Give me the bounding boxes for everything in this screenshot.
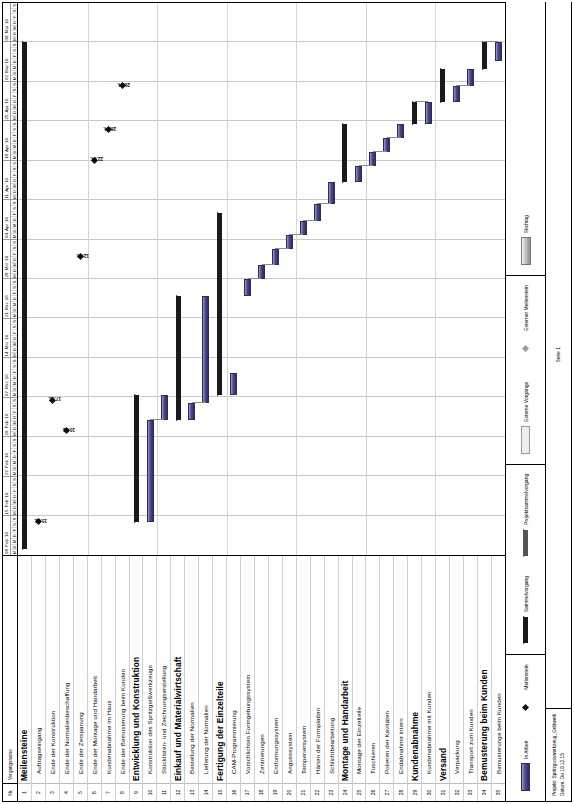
row-task-name: Schlichtbearbeitung <box>325 556 338 783</box>
table-row[interactable]: 1Meilensteine <box>18 556 32 801</box>
dependency-link <box>248 278 262 279</box>
table-row[interactable]: 33Transport zum Kunden <box>464 556 478 801</box>
table-row[interactable]: 11Stücklisten- und Zeichnungserstellung <box>157 556 171 801</box>
task-bar[interactable] <box>161 395 168 420</box>
table-row[interactable]: 6Ende der Montage und Handarbeit <box>88 556 102 801</box>
summary-bar[interactable] <box>217 213 222 395</box>
bar-icon <box>521 763 530 791</box>
week-label: 22. Feb '16 <box>3 438 11 477</box>
task-bar[interactable] <box>286 235 293 249</box>
table-row[interactable]: 16CAM-Programmierung <box>227 556 241 801</box>
task-bar[interactable] <box>272 249 279 266</box>
day-letter: M <box>11 341 17 347</box>
task-bar[interactable] <box>383 138 390 152</box>
table-row[interactable]: 8Ende der Bemusterung beim Kunden <box>116 556 130 801</box>
table-row[interactable]: 2Auftragseingang <box>32 556 46 801</box>
table-row[interactable]: 7Kundenabnahme im Haus <box>102 556 116 801</box>
table-row[interactable]: 32Verpackung <box>450 556 464 801</box>
external-milestone-icon <box>522 345 529 352</box>
table-row[interactable]: 19Entformungssystem <box>269 556 283 801</box>
day-letter: D <box>11 267 17 273</box>
table-row[interactable]: 12Einkauf und Materialwirtschaft <box>171 556 185 801</box>
table-row[interactable]: 29Kundenabnahme <box>408 556 422 801</box>
table-row[interactable]: 9Entwicklung und Konstruktion <box>130 556 144 801</box>
milestone-label: 17.03. <box>48 396 61 401</box>
table-row[interactable]: 21Temperiersystem <box>297 556 311 801</box>
week-days: MDMDFSS <box>11 477 17 516</box>
table-row[interactable]: 10Konstruktion des Spritzgießwerkzeugs <box>143 556 157 801</box>
day-letter: S <box>11 87 17 93</box>
table-row[interactable]: 13Bestellung der Normalien <box>185 556 199 801</box>
table-row[interactable]: 20Angusssystem <box>283 556 297 801</box>
deadline-icon <box>521 237 531 265</box>
task-bar[interactable] <box>425 102 432 124</box>
task-bar[interactable] <box>314 205 321 222</box>
task-bar[interactable] <box>355 166 362 183</box>
table-row[interactable]: 17Vorschlichten Formgebungssystem <box>241 556 255 801</box>
legend-symbol-project-summary <box>523 528 528 558</box>
day-letter: M <box>11 75 17 81</box>
task-bar[interactable] <box>188 403 195 420</box>
day-letter: M <box>11 352 17 358</box>
dependency-link <box>415 101 429 102</box>
table-row[interactable]: 31Versand <box>436 556 450 801</box>
dependency-link <box>387 137 401 138</box>
summary-bar[interactable] <box>22 42 27 550</box>
table-row[interactable]: 26Tuschieren <box>366 556 380 801</box>
task-bar[interactable] <box>495 42 502 61</box>
horizontal-gridline <box>366 3 367 555</box>
task-bar[interactable] <box>397 124 404 138</box>
day-letter: M <box>11 143 17 149</box>
table-row[interactable]: 18Zentrierungen <box>255 556 269 801</box>
day-letter: F <box>11 369 17 375</box>
milestone-label: 26.04. <box>104 126 117 131</box>
day-letter: M <box>11 262 17 268</box>
week-days: MDMDFSS <box>11 161 17 200</box>
summary-bar[interactable] <box>342 124 347 182</box>
day-letter: S <box>11 126 17 132</box>
task-bar[interactable] <box>467 69 474 86</box>
table-row[interactable]: 30Kundenabnahme mit Kunden <box>422 556 436 801</box>
task-bar[interactable] <box>258 265 265 279</box>
legend-symbol-bar <box>521 762 530 792</box>
task-bar[interactable] <box>244 279 251 296</box>
table-row[interactable]: 22Härten der Formplatten <box>311 556 325 801</box>
timescale-week: 22. Feb '16MDMDFSS <box>3 437 17 477</box>
task-bar[interactable] <box>453 86 460 103</box>
table-row[interactable]: 35Bemusterunge beim Kunden <box>492 556 505 801</box>
week-label: 25. Apr '16 <box>3 82 11 121</box>
legend-label: Externer Meilenstein <box>523 285 529 331</box>
row-number: 26 <box>366 783 379 801</box>
table-row[interactable]: 28Endabnahme intern <box>394 556 408 801</box>
table-row[interactable]: 14Lieferung der Normalien <box>199 556 213 801</box>
summary-bar[interactable] <box>134 395 139 522</box>
task-bar[interactable] <box>147 420 154 522</box>
table-row[interactable]: 27Polieren der Kavitäten <box>380 556 394 801</box>
task-bar[interactable] <box>328 182 335 204</box>
day-letter: S <box>11 47 17 53</box>
table-row[interactable]: 23Schlichtbearbeitung <box>325 556 339 801</box>
summary-bar[interactable] <box>176 296 181 420</box>
table-row[interactable]: 15Fertigung der Einzelteile <box>213 556 227 801</box>
task-bar[interactable] <box>202 296 209 404</box>
summary-bar[interactable] <box>412 102 417 124</box>
summary-bar[interactable] <box>440 69 445 102</box>
summary-bar[interactable] <box>482 42 487 70</box>
table-row[interactable]: 25Montage der Einzelteile <box>353 556 367 801</box>
task-bar[interactable] <box>300 221 307 235</box>
table-row[interactable]: 3Ende der Konstruktion <box>46 556 60 801</box>
row-task-name: Tuschieren <box>366 556 379 783</box>
gantt-plot-area[interactable]: 15.02.17.03.10.03.12.04.22.04.26.04.29.0… <box>18 3 505 555</box>
table-row[interactable]: 5Ende der Zerspanung <box>74 556 88 801</box>
project-info-cell: Projekt: Spritzgusswerkzeug_Grittwerk Da… <box>546 708 571 801</box>
table-row[interactable]: 4Ende der Normalienbeschaffung <box>60 556 74 801</box>
table-row[interactable]: 34Bemusterung beim Kunden <box>478 556 492 801</box>
day-letter: D <box>11 137 17 143</box>
table-row[interactable]: 24Montage und Handarbeit <box>339 556 353 801</box>
row-task-name: Vorschlichten Formgebungssystem <box>241 556 254 783</box>
task-bar[interactable] <box>369 152 376 166</box>
week-days: MDMDFSS <box>11 240 17 279</box>
task-bar[interactable] <box>230 373 237 395</box>
legend-separator <box>506 464 545 465</box>
week-days: MDMDFSS <box>11 359 17 398</box>
